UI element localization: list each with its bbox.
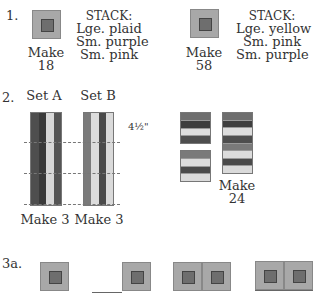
set-a-make: Make 3: [20, 214, 70, 226]
cut-segment-a: [180, 112, 211, 144]
square-in-square-block: [202, 262, 231, 291]
square-in-square-block: [190, 9, 219, 38]
center-square: [199, 18, 212, 31]
cut-line: [24, 173, 120, 174]
stack-line: Sm. pink: [76, 49, 142, 61]
center-square: [41, 19, 54, 32]
make-count: 18: [26, 60, 66, 72]
step-2-label: 2.: [2, 92, 14, 104]
square-in-square-block: [40, 262, 69, 291]
set-a-title: Set A: [24, 90, 64, 102]
make-count: 58: [184, 60, 224, 72]
set-b-title: Set B: [78, 90, 118, 102]
seam-line: [92, 292, 122, 293]
make-count: 24: [217, 193, 257, 205]
center-square: [264, 270, 277, 283]
step-3a-label: 3a.: [2, 258, 22, 270]
square-in-square-block: [255, 261, 284, 290]
measurement-label: 4½": [128, 121, 149, 133]
square-in-square-block: [284, 261, 313, 290]
center-square: [131, 271, 144, 284]
square-in-square-block: [122, 262, 151, 291]
cut-line: [24, 204, 120, 205]
square-in-square-block: [32, 10, 61, 39]
step-1-label: 1.: [6, 10, 18, 22]
center-square: [293, 270, 306, 283]
center-square: [49, 271, 62, 284]
set-b-make: Make 3: [74, 214, 124, 226]
stack-line: Sm. purple: [236, 49, 308, 61]
square-in-square-block: [173, 262, 202, 291]
strip-set-b: [83, 112, 114, 206]
seam-line: [255, 290, 313, 291]
strip-unit-joined: [222, 112, 253, 174]
center-square: [211, 271, 224, 284]
strip-set-a: [30, 112, 62, 206]
cut-segment-b: [180, 150, 211, 182]
cut-line: [24, 142, 120, 143]
center-square: [182, 271, 195, 284]
